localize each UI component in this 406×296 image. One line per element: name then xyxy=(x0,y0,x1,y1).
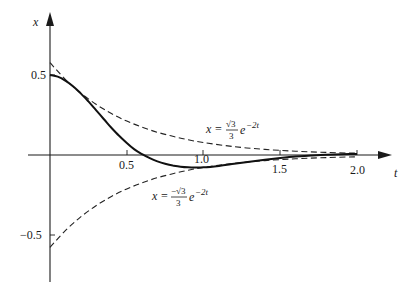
y-axis-label: x xyxy=(32,15,39,29)
upper-envelope-label: x = √3 3 e −2t xyxy=(205,119,260,141)
y-axis-arrow-icon xyxy=(46,12,54,26)
upper-envelope-curve xyxy=(50,63,357,154)
x-tick-1.0: 1.0 xyxy=(194,152,209,166)
svg-text:√3: √3 xyxy=(226,119,236,129)
chart-canvas: x t 0.5 1.0 1.5 2.0 0.5 −0.5 x = √3 3 e … xyxy=(0,0,406,296)
y-tick-0.5: 0.5 xyxy=(31,68,46,82)
lower-envelope-label: x = −√3 3 e −2t xyxy=(151,186,209,208)
x-tick-0.5: 0.5 xyxy=(119,158,134,172)
svg-text:x =: x = xyxy=(151,189,168,203)
x-tick-1.5: 1.5 xyxy=(272,162,287,176)
svg-text:3: 3 xyxy=(229,131,234,141)
svg-text:3: 3 xyxy=(176,198,181,208)
svg-text:x =: x = xyxy=(205,122,222,136)
svg-text:−√3: −√3 xyxy=(171,186,186,196)
lower-envelope-curve xyxy=(50,157,357,248)
svg-text:−2t: −2t xyxy=(195,187,209,197)
x-axis-label: t xyxy=(394,166,398,180)
x-tick-2.0: 2.0 xyxy=(350,163,365,177)
svg-text:−2t: −2t xyxy=(246,120,260,130)
x-axis-arrow-icon xyxy=(378,151,392,159)
y-tick-neg-0.5: −0.5 xyxy=(20,228,42,242)
